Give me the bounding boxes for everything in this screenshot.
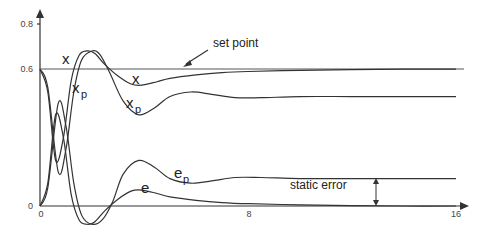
curve-x — [40, 51, 456, 162]
x-axis-arrow-icon — [460, 202, 469, 210]
x-tick-label-0: 0 — [38, 209, 43, 219]
label-ep: e — [174, 164, 182, 181]
static-error-label: static error — [290, 178, 347, 192]
label-xp-near: x — [72, 79, 80, 96]
label-x-far: x — [132, 70, 140, 87]
label-xp-far: x — [126, 94, 134, 111]
curves-group — [40, 51, 456, 225]
label-xp-near-sub: p — [81, 88, 87, 100]
label-ep-sub: p — [183, 173, 189, 185]
y-axis-arrow-icon — [36, 9, 44, 18]
y-tick-label-08: 0.8 — [20, 19, 33, 29]
set-point-label: set point — [213, 36, 259, 50]
label-x-near: x — [62, 50, 70, 67]
x-tick-label-8: 8 — [246, 209, 251, 219]
y-tick-label-0: 0 — [28, 201, 33, 211]
x-tick-label-16: 16 — [451, 209, 461, 219]
static-error-arrow-down-icon — [373, 200, 379, 206]
y-tick-label-06: 0.6 — [20, 64, 33, 74]
curve-e — [40, 113, 456, 224]
label-e: e — [141, 179, 149, 196]
label-xp-far-sub: p — [135, 103, 141, 115]
control-response-chart: 0.8 0.6 0 0 8 16 x x p x x p e p e set p… — [0, 0, 490, 229]
